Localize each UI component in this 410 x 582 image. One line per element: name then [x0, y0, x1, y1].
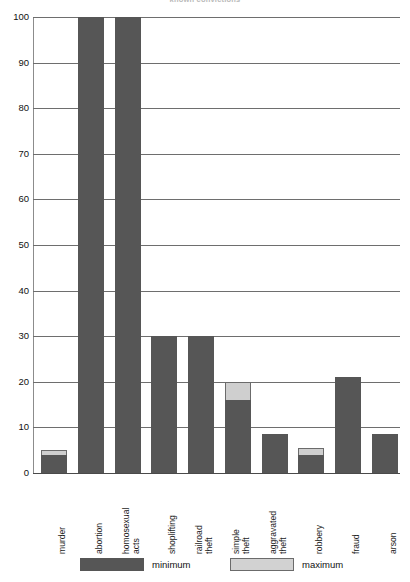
bar-group[interactable] [78, 17, 104, 473]
y-tick-label: 20 [3, 377, 29, 387]
y-tick-label: 30 [3, 331, 29, 341]
x-tick-label: simple theft [225, 476, 251, 554]
x-tick-label: homosexual acts [115, 476, 141, 554]
bar-segment-minimum[interactable] [115, 17, 141, 473]
x-tick-label-text: railroad theft [188, 476, 214, 554]
bar-segment-minimum[interactable] [262, 434, 288, 473]
y-tick-label: 60 [3, 194, 29, 204]
y-axis-labels: 0102030405060708090100 [0, 0, 29, 582]
bar-segment-minimum[interactable] [41, 455, 67, 473]
bar-group[interactable] [188, 17, 214, 473]
legend-item-minimum[interactable]: minimum [80, 558, 191, 571]
bar-group[interactable] [262, 17, 288, 473]
bar-group[interactable] [41, 17, 67, 473]
y-tick-label: 50 [3, 240, 29, 250]
x-tick-label-text: simple theft [225, 476, 251, 554]
bar-segment-minimum[interactable] [151, 336, 177, 473]
legend-label-minimum: minimum [152, 560, 191, 570]
x-tick-label: arson [372, 476, 398, 554]
bar-segment-minimum[interactable] [372, 434, 398, 473]
x-tick-label-text: robbery [298, 476, 324, 554]
x-tick-label-text: fraud [335, 476, 361, 554]
x-tick-label: robbery [298, 476, 324, 554]
bar-segment-minimum[interactable] [335, 377, 361, 473]
x-tick-label-text: abortion [78, 476, 104, 554]
x-tick-label-text: arson [372, 476, 398, 554]
x-tick-label: abortion [78, 476, 104, 554]
bar-group[interactable] [298, 17, 324, 473]
bar-group[interactable] [115, 17, 141, 473]
chart-legend: minimum maximum [0, 558, 410, 582]
bar-group[interactable] [335, 17, 361, 473]
x-tick-label: railroad theft [188, 476, 214, 554]
x-tick-label-text: shoplifting [151, 476, 177, 554]
x-tick-label: aggravated theft [262, 476, 288, 554]
y-tick-label: 100 [3, 12, 29, 22]
x-tick-label-text: murder [41, 476, 67, 554]
x-tick-label: murder [41, 476, 67, 554]
x-axis-labels: murderabortionhomosexual actsshoplifting… [33, 476, 400, 554]
axis-baseline [33, 473, 400, 474]
legend-item-maximum[interactable]: maximum [230, 558, 343, 571]
legend-label-maximum: maximum [302, 560, 343, 570]
legend-swatch-minimum [80, 558, 144, 571]
bar-segment-minimum[interactable] [188, 336, 214, 473]
chart-title: known convictions [0, 0, 410, 4]
y-tick-label: 80 [3, 103, 29, 113]
x-tick-label: fraud [335, 476, 361, 554]
x-tick-label: shoplifting [151, 476, 177, 554]
y-tick-label: 0 [3, 468, 29, 478]
y-tick-label: 90 [3, 58, 29, 68]
bar-segment-minimum[interactable] [298, 455, 324, 473]
legend-swatch-maximum [230, 558, 294, 571]
y-tick-label: 40 [3, 286, 29, 296]
bar-segment-minimum[interactable] [225, 400, 251, 473]
x-tick-label-text: homosexual acts [115, 476, 141, 554]
bar-group[interactable] [151, 17, 177, 473]
x-tick-label-text: aggravated theft [262, 476, 288, 554]
bar-group[interactable] [225, 17, 251, 473]
bar-group[interactable] [372, 17, 398, 473]
y-tick-label: 70 [3, 149, 29, 159]
y-tick-label: 10 [3, 422, 29, 432]
bar-segment-minimum[interactable] [78, 17, 104, 473]
plot-area [33, 17, 400, 473]
